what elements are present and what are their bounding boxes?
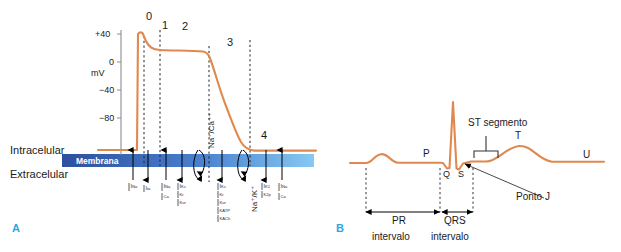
- label-na-k-pump: Na⁺/K⁺: [251, 186, 259, 212]
- y-tick-minus80: −80: [99, 114, 114, 123]
- panel-a-action-potential: mV +40 0 −40 −80 0 1 2 3 4 Intracelular …: [0, 0, 330, 252]
- y-tick-zero: 0: [109, 58, 114, 67]
- label-membrana: Membrana: [76, 156, 119, 166]
- current-label-iks-2: IKs: [220, 184, 226, 189]
- interval-unit-pr: intervalo: [372, 232, 410, 242]
- current-label-inaca-1: INa: [164, 184, 171, 189]
- current-label-ikach: KACh: [220, 216, 231, 221]
- phase-label-3: 3: [227, 37, 233, 48]
- current-label-ito: Ito: [146, 186, 151, 191]
- panel-b-ecg: P Q S T U ST segmento Ponto J PR QRS int…: [330, 0, 621, 252]
- interval-unit-qrs: intervalo: [431, 232, 469, 242]
- st-segment-bracket: [474, 151, 498, 158]
- y-axis-unit: mV: [91, 69, 105, 78]
- current-label-iks-1: IKs: [180, 184, 186, 189]
- annotation-ponto-j: Ponto J: [516, 192, 550, 202]
- y-tick-plus40: +40: [95, 30, 110, 39]
- current-label-ikr-1: Kr: [180, 192, 184, 197]
- interval-label-pr: PR: [392, 216, 406, 226]
- current-label-ikatp: KATP: [220, 208, 230, 213]
- current-label-ik1: IK1: [264, 184, 270, 189]
- current-label-inaca-1-ca: Ca: [164, 194, 169, 199]
- panel-a-graphics: [0, 0, 330, 252]
- y-tick-minus40: −40: [99, 86, 114, 95]
- current-label-ik2p: K2p: [264, 192, 271, 197]
- phase-label-2: 2: [182, 21, 188, 32]
- interval-label-qrs: QRS: [444, 216, 466, 226]
- label-intracelular: Intracelular: [10, 145, 64, 156]
- current-label-inaca-2: INa: [281, 184, 288, 189]
- label-extracelular: Extracelular: [10, 169, 68, 180]
- phase-label-1: 1: [162, 20, 168, 31]
- phase-label-0: 0: [146, 11, 152, 22]
- wave-label-p: P: [423, 149, 430, 159]
- ecg-trace: [350, 102, 604, 170]
- wave-label-t: T: [515, 131, 521, 141]
- current-label-ikr-2: Kr: [220, 192, 224, 197]
- panel-tag-a: A: [12, 222, 20, 234]
- label-na-ca-exchanger: Na⁺/Ca⁺⁺: [208, 113, 216, 148]
- wave-label-s: S: [458, 170, 464, 179]
- wave-label-q: Q: [443, 170, 450, 179]
- phase-label-4: 4: [261, 130, 267, 141]
- current-label-ikur-1: Kur: [180, 200, 186, 205]
- panel-tag-b: B: [336, 222, 344, 234]
- wave-label-u: U: [583, 150, 590, 160]
- current-label-ikur-2: Kur: [220, 200, 226, 205]
- current-label-inaca-2-ca: Ca: [281, 194, 286, 199]
- current-label-ina: INa: [131, 184, 138, 189]
- annotation-st-segmento: ST segmento: [468, 118, 527, 128]
